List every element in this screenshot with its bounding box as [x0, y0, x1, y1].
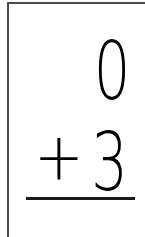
card-border-top — [7, 2, 145, 4]
bottom-operand: 3 — [91, 123, 128, 203]
card-border-left — [7, 2, 9, 237]
top-operand: 0 — [94, 32, 129, 112]
answer-line — [26, 197, 135, 200]
plus-operator: + — [34, 124, 84, 190]
